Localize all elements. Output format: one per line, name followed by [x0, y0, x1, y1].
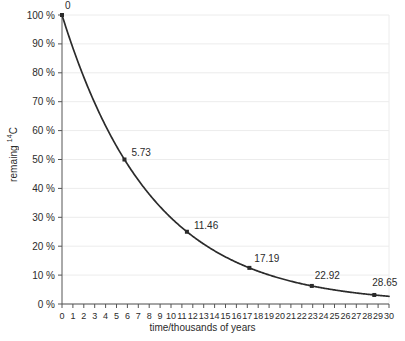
- x-axis-tick-label: 12: [188, 311, 198, 321]
- x-axis-tick-label: 1: [70, 311, 75, 321]
- y-axis-tick-label: 60 %: [32, 125, 55, 136]
- data-point-markers: [60, 13, 376, 297]
- data-point-label: 11.46: [194, 220, 219, 231]
- y-axis-tick-label: 50 %: [32, 154, 55, 165]
- data-point-marker: [60, 13, 64, 17]
- x-axis-title: time/thousands of years: [0, 322, 405, 333]
- x-axis-tick-label: 11: [177, 311, 186, 321]
- decay-curve-chart: 0 %10 %20 %30 %40 %50 %60 %70 %80 %90 %1…: [0, 0, 405, 341]
- x-axis-tick-label: 25: [329, 311, 339, 321]
- x-axis-tick-label: 15: [220, 311, 230, 321]
- data-point-label: 22.92: [315, 270, 340, 281]
- x-axis-tick-label: 13: [199, 311, 209, 321]
- x-axis-tick-label: 5: [114, 311, 119, 321]
- x-axis-tick-labels: 0123456789101112131415161718192021222324…: [59, 311, 394, 321]
- x-axis-tick-label: 30: [384, 311, 394, 321]
- x-axis-tick-label: 27: [351, 311, 361, 321]
- x-axis-tick-label: 28: [362, 311, 372, 321]
- x-axis-tick-label: 0: [59, 311, 64, 321]
- y-axis-tick-label: 80 %: [32, 67, 55, 78]
- data-point-marker: [185, 230, 189, 234]
- x-axis-ticks: [62, 304, 389, 308]
- y-axis-tick-label: 20 %: [32, 241, 55, 252]
- y-axis-tick-label: 70 %: [32, 96, 55, 107]
- x-axis-tick-label: 19: [264, 311, 274, 321]
- y-axis-ticks: [58, 15, 62, 304]
- x-axis-tick-label: 26: [340, 311, 350, 321]
- data-point-label: 5.73: [131, 147, 151, 158]
- x-axis-tick-label: 18: [253, 311, 263, 321]
- x-axis-tick-label: 7: [136, 311, 141, 321]
- x-axis-tick-label: 22: [297, 311, 307, 321]
- x-axis-tick-label: 6: [125, 311, 130, 321]
- data-point-marker: [247, 266, 251, 270]
- x-axis-tick-label: 16: [231, 311, 241, 321]
- y-axis-tick-labels: 0 %10 %20 %30 %40 %50 %60 %70 %80 %90 %1…: [27, 10, 55, 310]
- x-axis-tick-label: 21: [286, 311, 296, 321]
- x-axis-tick-label: 4: [103, 311, 108, 321]
- x-axis-tick-label: 17: [242, 311, 252, 321]
- y-axis-tick-label: 100 %: [27, 10, 55, 21]
- data-point-label: 0: [65, 0, 71, 11]
- x-axis-tick-label: 3: [92, 311, 97, 321]
- x-axis-tick-label: 20: [275, 311, 285, 321]
- data-point-marker: [372, 293, 376, 297]
- data-point-label: 17.19: [254, 253, 279, 264]
- x-axis-tick-label: 14: [210, 311, 220, 321]
- x-axis-tick-label: 10: [166, 311, 176, 321]
- x-axis-tick-label: 24: [319, 311, 329, 321]
- gridlines: [62, 15, 389, 304]
- data-point-label: 28.65: [372, 277, 397, 288]
- x-axis-tick-label: 9: [158, 311, 163, 321]
- y-axis-tick-label: 40 %: [32, 183, 55, 194]
- y-axis-tick-label: 0 %: [38, 299, 55, 310]
- x-axis-tick-label: 23: [308, 311, 318, 321]
- y-axis-tick-label: 30 %: [32, 212, 55, 223]
- x-axis-tick-label: 8: [147, 311, 152, 321]
- decay-curve-line: [62, 15, 389, 296]
- y-axis-tick-label: 90 %: [32, 38, 55, 49]
- chart-container: 0 %10 %20 %30 %40 %50 %60 %70 %80 %90 %1…: [0, 0, 405, 341]
- data-point-marker: [122, 158, 126, 162]
- y-axis-tick-label: 10 %: [32, 270, 55, 281]
- x-axis-tick-label: 2: [81, 311, 86, 321]
- data-point-marker: [310, 284, 314, 288]
- x-axis-tick-label: 29: [373, 311, 383, 321]
